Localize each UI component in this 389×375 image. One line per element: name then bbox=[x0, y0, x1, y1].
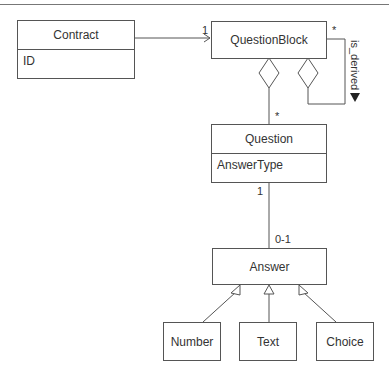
class-text-name: Text bbox=[240, 335, 296, 349]
class-question-name: Question bbox=[212, 132, 326, 146]
class-divider bbox=[212, 153, 326, 154]
class-question[interactable]: Question AnswerType bbox=[211, 124, 327, 183]
class-contract-name: Contract bbox=[18, 28, 134, 42]
association-label-is-derived: is_derived bbox=[349, 40, 361, 90]
class-questionblock[interactable]: QuestionBlock bbox=[211, 21, 327, 59]
class-choice[interactable]: Choice bbox=[316, 322, 374, 361]
class-questionblock-name: QuestionBlock bbox=[212, 33, 326, 47]
class-number[interactable]: Number bbox=[163, 322, 221, 361]
multiplicity-question-source: 1 bbox=[257, 185, 263, 197]
class-answer-name: Answer bbox=[213, 260, 326, 274]
multiplicity-block-question: * bbox=[275, 110, 279, 122]
class-divider bbox=[18, 49, 134, 50]
triangle-down-icon bbox=[350, 93, 360, 103]
class-question-attribute-answertype: AnswerType bbox=[217, 158, 283, 172]
class-contract[interactable]: Contract ID bbox=[17, 20, 135, 79]
multiplicity-block-self: * bbox=[332, 24, 336, 36]
class-text[interactable]: Text bbox=[239, 322, 297, 361]
multiplicity-contract-block: 1 bbox=[202, 24, 208, 36]
class-choice-name: Choice bbox=[317, 335, 373, 349]
class-number-name: Number bbox=[164, 335, 220, 349]
multiplicity-answer-target: 0-1 bbox=[275, 233, 291, 245]
class-contract-attribute-id: ID bbox=[23, 54, 35, 68]
class-answer[interactable]: Answer bbox=[212, 248, 327, 285]
